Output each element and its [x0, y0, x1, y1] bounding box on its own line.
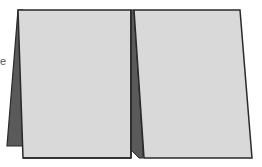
tent-card-illustration	[0, 0, 262, 167]
right-front-panel	[134, 10, 252, 158]
left-front-panel	[18, 10, 131, 158]
